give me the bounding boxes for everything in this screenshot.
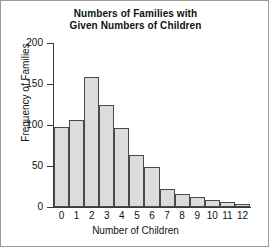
x-axis-label: Number of Children bbox=[1, 225, 269, 236]
bar bbox=[84, 77, 99, 207]
y-axis-tick-label: 100 bbox=[0, 120, 43, 130]
chart-title: Numbers of Families with Given Numbers o… bbox=[1, 8, 269, 32]
y-axis-tick bbox=[47, 43, 54, 44]
y-axis-tick bbox=[47, 125, 54, 126]
bar bbox=[129, 155, 144, 207]
y-axis-tick-label: 50 bbox=[0, 161, 43, 171]
bar bbox=[205, 200, 220, 207]
bar bbox=[54, 127, 69, 207]
chart-title-line-2: Given Numbers of Children bbox=[1, 20, 269, 32]
bar bbox=[144, 167, 159, 207]
bar bbox=[220, 202, 235, 207]
y-axis-tick-label: 200 bbox=[0, 38, 43, 48]
bar bbox=[114, 128, 129, 207]
chart-figure: Numbers of Families with Given Numbers o… bbox=[0, 0, 269, 247]
plot-area bbox=[54, 43, 250, 207]
bar bbox=[235, 204, 250, 207]
y-axis-tick bbox=[47, 207, 54, 208]
chart-title-line-1: Numbers of Families with bbox=[1, 8, 269, 20]
bar bbox=[175, 194, 190, 207]
y-axis-tick-label: 0 bbox=[0, 202, 43, 212]
y-axis-tick-label: 150 bbox=[0, 79, 43, 89]
bar bbox=[160, 189, 175, 207]
x-axis-tick-label: 12 bbox=[232, 210, 252, 221]
y-axis-tick bbox=[47, 166, 54, 167]
bar bbox=[190, 197, 205, 207]
y-axis-tick bbox=[47, 84, 54, 85]
x-axis-line bbox=[53, 207, 251, 208]
bar bbox=[99, 105, 114, 208]
bar bbox=[69, 120, 84, 207]
